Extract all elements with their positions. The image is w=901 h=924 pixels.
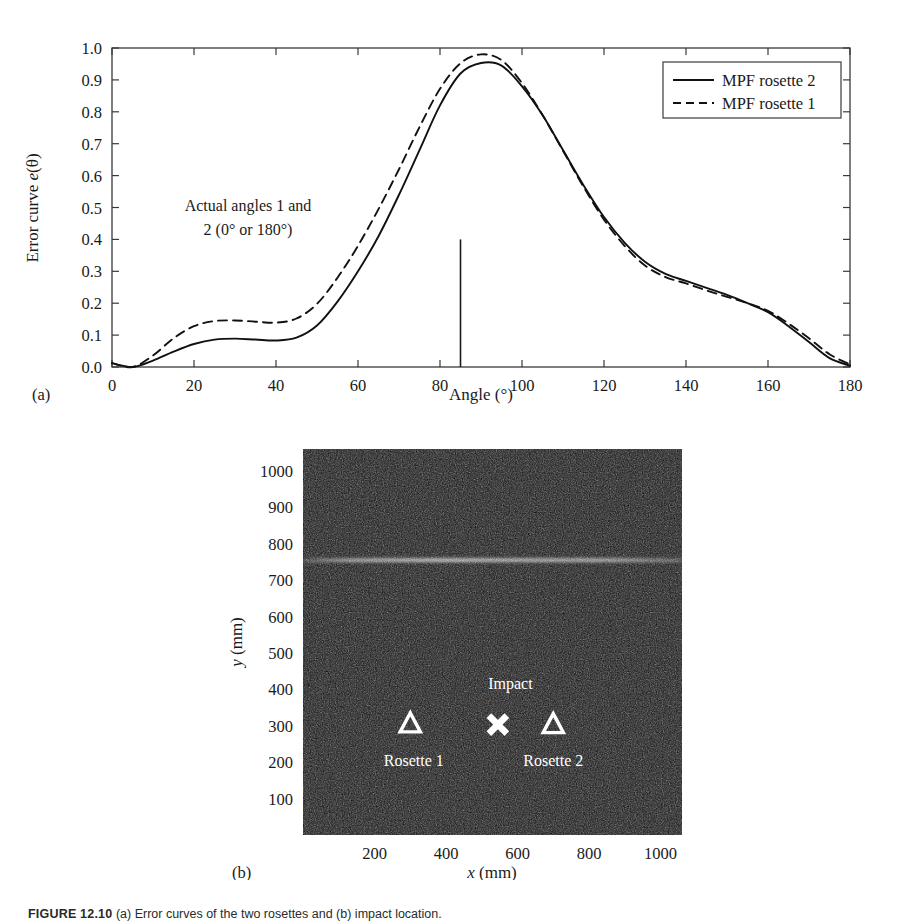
y-label-prefix: Error curve	[23, 180, 42, 262]
panel-a-chart: 020406080100120140160180 0.00.10.20.30.4…	[0, 0, 901, 410]
y-tick-label: 0.0	[81, 358, 102, 377]
annotation-line-2: 2 (0° or 180°)	[204, 221, 293, 239]
panel-b-x-tick-label: 200	[362, 844, 387, 863]
y-label-suffix: (θ)	[23, 153, 42, 172]
panel-b-y-tick-label: 100	[268, 790, 293, 809]
panel-b-y-tick-label: 500	[268, 644, 293, 663]
caption-label: FIGURE 12.10	[28, 907, 112, 921]
y-tick-label: 0.3	[81, 262, 102, 281]
panel-b-marker-label: Rosette 1	[384, 752, 444, 769]
legend-label-rosette-2: MPF rosette 2	[722, 71, 816, 90]
y-tick-label: 0.2	[81, 294, 102, 313]
y-tick-label: 0.1	[81, 326, 102, 345]
panel-b-marker-label: Impact	[488, 675, 533, 693]
panel-b-y-tick-label: 900	[268, 498, 293, 517]
svg-text:Error curve e(θ): Error curve e(θ)	[23, 153, 42, 262]
panel-b-x-label-rest: (mm)	[475, 863, 517, 880]
panel-b-y-tick-label: 400	[268, 680, 293, 699]
panel-a-legend: MPF rosette 2 MPF rosette 1	[663, 62, 841, 118]
panel-b-x-tick-label: 800	[577, 844, 602, 863]
panel-b-y-tick-label: 300	[268, 717, 293, 736]
panel-b-x-tick-label: 600	[505, 844, 530, 863]
panel-b-y-label-italic: y	[227, 659, 246, 669]
y-tick-label: 0.9	[81, 71, 102, 90]
caption-text: (a) Error curves of the two rosettes and…	[116, 907, 442, 921]
bright-streak-group	[303, 558, 682, 562]
panel-b-marker-label: Rosette 2	[523, 752, 583, 769]
x-tick-label: 0	[108, 376, 116, 395]
figure-container: 020406080100120140160180 0.00.10.20.30.4…	[0, 0, 901, 924]
panel-b-x-tick-label: 400	[434, 844, 459, 863]
x-tick-label: 40	[268, 376, 285, 395]
y-tick-label: 1.0	[81, 39, 102, 58]
panel-b-chart: 2004006008001000 10020030040050060070080…	[0, 410, 901, 880]
panel-b-y-tick-label: 800	[268, 535, 293, 554]
speckle-noise	[303, 449, 682, 835]
panel-b-letter: (b)	[232, 863, 251, 880]
y-tick-label: 0.5	[81, 199, 102, 218]
panel-b-y-label-rest: (mm)	[227, 617, 246, 659]
annotation-line-1: Actual angles 1 and	[185, 197, 312, 215]
x-tick-label: 140	[674, 376, 699, 395]
panel-b-x-axis-label: x (mm)	[466, 863, 517, 880]
x-tick-label: 60	[350, 376, 367, 395]
panel-b-y-tick-labels: 1002003004005006007008009001000	[260, 462, 293, 809]
y-tick-label: 0.4	[81, 230, 102, 249]
panel-b-y-axis-label: y (mm)	[227, 617, 246, 669]
x-tick-label: 20	[186, 376, 203, 395]
panel-b-y-tick-label: 1000	[260, 462, 293, 481]
figure-caption: FIGURE 12.10 (a) Error curves of the two…	[28, 906, 878, 924]
panel-a-letter: (a)	[32, 385, 50, 404]
panel-a-x-axis-label: Angle (°)	[449, 385, 513, 404]
panel-b-x-tick-labels: 2004006008001000	[362, 844, 677, 863]
panel-a-error-curves: 020406080100120140160180 0.00.10.20.30.4…	[0, 0, 901, 410]
x-tick-label: 180	[838, 376, 863, 395]
panel-b-y-tick-label: 600	[268, 608, 293, 627]
panel-b-y-tick-label: 700	[268, 571, 293, 590]
panel-a-y-axis-label: Error curve e(θ)	[23, 153, 42, 262]
bright-streak-core	[303, 560, 682, 562]
x-tick-label: 120	[592, 376, 617, 395]
panel-b-y-tick-label: 200	[268, 753, 293, 772]
x-tick-label: 160	[756, 376, 781, 395]
panel-a-y-tick-labels: 0.00.10.20.30.40.50.60.70.80.91.0	[81, 39, 102, 377]
panel-b-x-tick-label: 1000	[644, 844, 677, 863]
x-tick-label: 100	[510, 376, 535, 395]
x-tick-label: 80	[432, 376, 449, 395]
panel-b-impact-location: 2004006008001000 10020030040050060070080…	[0, 410, 901, 880]
y-tick-label: 0.6	[81, 167, 102, 186]
legend-label-rosette-1: MPF rosette 1	[722, 94, 816, 113]
speckle-image	[303, 449, 682, 835]
svg-text:y (mm): y (mm)	[227, 617, 246, 669]
y-tick-label: 0.7	[81, 135, 102, 154]
y-tick-label: 0.8	[81, 103, 102, 122]
